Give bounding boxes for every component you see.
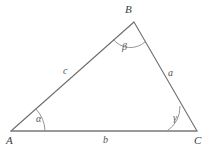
angle-label-alpha: α bbox=[36, 114, 41, 124]
angle-label-gamma: γ bbox=[173, 113, 177, 123]
angle-label-beta: β bbox=[122, 42, 127, 52]
triangle-figure: A B C c a b α β γ bbox=[0, 0, 215, 154]
vertex-label-c: C bbox=[194, 135, 201, 146]
triangle-diagram-svg bbox=[0, 0, 215, 154]
angle-arc-beta bbox=[113, 39, 145, 48]
side-label-a: a bbox=[168, 68, 173, 78]
side-label-b: b bbox=[103, 135, 108, 145]
triangle-side-c-line bbox=[11, 22, 134, 131]
triangle-side-a-line bbox=[134, 22, 197, 131]
vertex-label-b: B bbox=[125, 4, 132, 15]
side-label-c: c bbox=[63, 66, 67, 76]
vertex-label-a: A bbox=[6, 135, 13, 146]
